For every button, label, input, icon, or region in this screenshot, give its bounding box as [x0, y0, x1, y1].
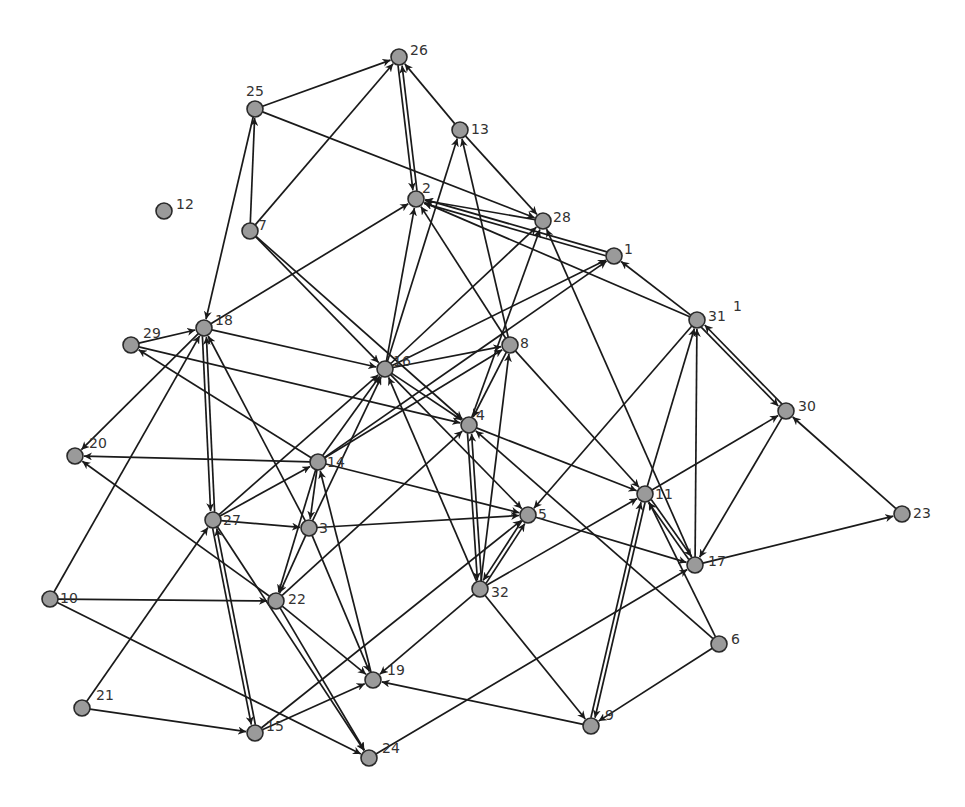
edge-17-to-23 [703, 516, 894, 563]
edge-14-to-8 [325, 350, 503, 458]
node-label-12: 12 [176, 196, 194, 212]
node-24[interactable] [361, 750, 377, 766]
node-25[interactable] [247, 101, 263, 117]
edge-32-to-9 [485, 595, 585, 719]
node-label-18: 18 [215, 312, 233, 328]
edge-9-to-19 [382, 682, 583, 724]
node-16[interactable] [377, 361, 393, 377]
node-23[interactable] [894, 506, 910, 522]
node-label-9: 9 [605, 707, 614, 723]
node-label-31: 31 [708, 308, 726, 324]
edge-3-to-16 [313, 377, 382, 521]
node-label-17: 17 [708, 553, 726, 569]
node-10[interactable] [42, 591, 58, 607]
node-label-22: 22 [288, 591, 306, 607]
node-label-29: 29 [143, 325, 161, 341]
node-label-5: 5 [538, 506, 547, 522]
node-label-7: 7 [258, 217, 267, 233]
node-label-6: 6 [731, 631, 740, 647]
edge-24-to-17 [376, 570, 687, 754]
node-20[interactable] [67, 448, 83, 464]
node-label-25: 25 [246, 83, 264, 99]
node-18[interactable] [196, 320, 212, 336]
node-label-26: 26 [410, 42, 428, 58]
node-label-21: 21 [96, 687, 114, 703]
edge-25-to-18 [206, 117, 253, 319]
edge-6-to-9 [599, 648, 713, 721]
edge-16-to-2 [386, 208, 414, 361]
edge-30-to-31 [705, 325, 782, 404]
edge-3-to-18 [208, 336, 305, 521]
node-label-28: 28 [553, 209, 571, 225]
node-label-11: 11 [655, 486, 673, 502]
node-label-32: 32 [491, 584, 509, 600]
node-8[interactable] [502, 337, 518, 353]
node-26[interactable] [391, 49, 407, 65]
edge-2-to-26 [402, 66, 417, 191]
node-32[interactable] [472, 581, 488, 597]
edge-16-to-5 [391, 375, 522, 509]
node-label-19: 19 [387, 662, 405, 678]
node-27[interactable] [205, 512, 221, 528]
node-label-3: 3 [319, 520, 328, 536]
node-4[interactable] [461, 417, 477, 433]
node-15[interactable] [247, 725, 263, 741]
edge-27-to-15 [213, 528, 252, 724]
edge-21-to-15 [90, 709, 246, 732]
node-label-24: 24 [382, 740, 400, 756]
node-6[interactable] [711, 636, 727, 652]
node-30[interactable] [778, 403, 794, 419]
edge-14-to-20 [84, 456, 310, 462]
edge-14-to-5 [326, 464, 520, 513]
node-label-15: 15 [266, 718, 284, 734]
edge-32-to-16 [389, 377, 477, 581]
node-label-27: 27 [223, 512, 241, 528]
edge-7-to-25 [250, 118, 254, 223]
node-19[interactable] [365, 672, 381, 688]
edge-11-to-30 [652, 416, 778, 490]
edge-25-to-26 [263, 60, 391, 106]
edge-15-to-27 [217, 528, 256, 724]
network-graph: 1234567891011121314151617181920212223242… [0, 0, 965, 807]
node-14[interactable] [310, 454, 326, 470]
edge-10-to-22 [58, 599, 267, 601]
edge-1-to-2 [425, 200, 607, 252]
node-11[interactable] [637, 486, 653, 502]
node-17[interactable] [687, 557, 703, 573]
node-label-20: 20 [89, 435, 107, 451]
node-label-2: 2 [422, 180, 431, 196]
node-29[interactable] [123, 337, 139, 353]
edge-26-to-2 [398, 65, 413, 190]
edge-25-to-28 [263, 112, 535, 218]
edge-18-to-2 [211, 204, 408, 324]
node-label-30: 30 [798, 398, 816, 414]
edge-30-to-17 [700, 418, 782, 557]
node-3[interactable] [301, 520, 317, 536]
node-label-8: 8 [520, 335, 529, 351]
edge-23-to-30 [793, 417, 896, 509]
edge-21-to-27 [87, 527, 208, 701]
edge-4-to-28 [472, 230, 540, 418]
node-12[interactable] [156, 203, 172, 219]
edge-17-to-31 [695, 329, 697, 557]
node-22[interactable] [268, 593, 284, 609]
edge-7-to-26 [255, 64, 393, 225]
node-21[interactable] [74, 700, 90, 716]
node-7[interactable] [242, 223, 258, 239]
node-13[interactable] [452, 122, 468, 138]
edge-16-to-13 [387, 139, 457, 362]
node-label-13: 13 [471, 121, 489, 137]
node-5[interactable] [520, 507, 536, 523]
edge-13-to-26 [405, 64, 455, 124]
edge-layer [54, 60, 896, 754]
edge-11-to-31 [647, 329, 694, 487]
edge-31-to-1 [621, 262, 691, 316]
edge-15-to-5 [261, 521, 521, 728]
node-1[interactable] [606, 248, 622, 264]
node-9[interactable] [583, 718, 599, 734]
node-28[interactable] [535, 213, 551, 229]
edge-31-to-30 [701, 327, 778, 406]
edge-17-to-11 [649, 503, 689, 560]
node-label-4: 4 [476, 407, 485, 423]
node-31[interactable] [689, 312, 705, 328]
